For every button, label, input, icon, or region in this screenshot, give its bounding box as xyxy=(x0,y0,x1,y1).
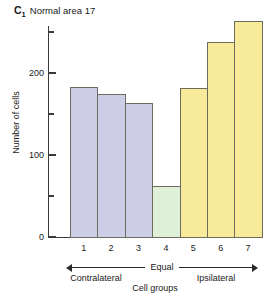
arrow-line-right xyxy=(179,267,252,268)
equal-annotation-text: Equal xyxy=(147,262,176,272)
bar-3 xyxy=(125,103,153,238)
arrow-right-icon xyxy=(252,264,258,272)
bar-6 xyxy=(207,42,235,238)
x-tick-label-4: 4 xyxy=(152,243,180,253)
x-tick-label-6: 6 xyxy=(207,243,235,253)
x-tick-label-5: 5 xyxy=(179,243,207,253)
x-tick-label-7: 7 xyxy=(234,243,262,253)
x-tick-label-1: 1 xyxy=(70,243,98,253)
x-axis-title: Cell groups xyxy=(48,283,262,293)
ipsilateral-label: Ipsilateral xyxy=(168,273,264,283)
contralateral-label: Contralateral xyxy=(48,273,144,283)
bar-2 xyxy=(97,94,125,238)
x-tick-label-2: 2 xyxy=(97,243,125,253)
bar-4 xyxy=(152,186,180,238)
bar-5 xyxy=(180,88,208,238)
x-tick-label-3: 3 xyxy=(125,243,153,253)
bar-1 xyxy=(70,87,98,238)
bar-7 xyxy=(234,21,262,238)
range-annotation: Equal xyxy=(0,262,272,273)
